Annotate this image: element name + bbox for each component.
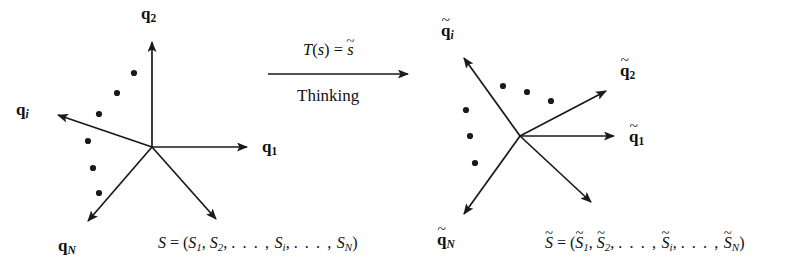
tilde-accent-icon: ~ bbox=[442, 12, 450, 28]
axis-arrow-q2-tilde bbox=[520, 91, 606, 136]
transform-formula-result: ~s bbox=[347, 42, 353, 59]
axis-label-q2-subscript: 2 bbox=[150, 12, 156, 24]
vector-diagram-svg bbox=[0, 0, 800, 270]
ellipsis-dot bbox=[114, 90, 120, 96]
axis-label-q2-tilde-base-wrap: ~q bbox=[620, 62, 629, 79]
state-label-s-item-i: S bbox=[275, 234, 283, 251]
left-diagram-axes bbox=[58, 42, 247, 221]
state-label-s-tilde-equals: = bbox=[553, 234, 570, 251]
state-label-s-tilde-comma-2: , bbox=[610, 234, 614, 251]
transform-method-label: Thinking bbox=[297, 87, 359, 104]
state-label-s-tilde-close: ) bbox=[739, 234, 744, 251]
axis-label-qi-tilde-base-wrap: ~q bbox=[441, 22, 450, 39]
ellipsis-dot bbox=[467, 133, 473, 139]
ellipsis-dot bbox=[96, 190, 102, 196]
tilde-accent-icon: ~ bbox=[575, 226, 583, 241]
transform-formula: T(s) = ~s bbox=[303, 42, 354, 59]
axis-label-q1-tilde: ~q1 bbox=[629, 128, 644, 148]
axis-label-q1-tilde-base-wrap: ~q bbox=[629, 128, 638, 145]
tilde-accent-icon: ~ bbox=[597, 226, 605, 241]
axis-arrow-qi-tilde bbox=[464, 58, 520, 136]
right-diagram-axes bbox=[464, 58, 614, 214]
state-label-s-tilde-item-N-wrap: ~S bbox=[724, 235, 732, 251]
state-label-s-tilde-dots-1: . . . , bbox=[618, 234, 657, 251]
state-label-s-comma-1: , bbox=[202, 234, 206, 251]
axis-arrow-qN bbox=[88, 147, 152, 221]
axis-label-qN-tilde-base-wrap: ~q bbox=[437, 231, 446, 248]
state-label-s-equals: = bbox=[166, 234, 183, 251]
tilde-accent-icon: ~ bbox=[724, 226, 732, 241]
state-label-s: S = (S1, S2, . . . , Si, . . . , SN) bbox=[158, 235, 358, 253]
axis-label-qN-tilde-subscript: N bbox=[446, 238, 454, 250]
state-label-s-tilde-item-2-wrap: ~S bbox=[597, 235, 605, 251]
tilde-accent-icon: ~ bbox=[630, 118, 638, 134]
state-label-s-comma-3: , bbox=[286, 234, 290, 251]
state-label-s-dots-2: . . . , bbox=[294, 234, 333, 251]
axis-arrow-qN-tilde bbox=[464, 136, 520, 214]
axis-arrow-s bbox=[152, 147, 216, 219]
axis-label-qN-tilde: ~qN bbox=[437, 231, 455, 251]
axis-arrow-s-tilde bbox=[520, 136, 591, 202]
state-label-s-tilde-comma-1: , bbox=[589, 234, 593, 251]
tilde-accent-icon: ~ bbox=[621, 52, 629, 68]
transform-formula-t: T bbox=[303, 40, 312, 59]
axis-label-q2-tilde: ~q2 bbox=[620, 62, 635, 82]
state-label-s-tilde-comma-3: , bbox=[673, 234, 677, 251]
tilde-accent-icon: ~ bbox=[346, 33, 354, 48]
ellipsis-dot bbox=[90, 165, 96, 171]
axis-label-q1-subscript: 1 bbox=[271, 145, 277, 157]
ellipsis-dot bbox=[131, 70, 137, 76]
state-label-s-tilde-item-1-wrap: ~S bbox=[575, 235, 583, 251]
ellipsis-dot bbox=[96, 111, 102, 117]
axis-label-qi-tilde-subscript: i bbox=[450, 29, 453, 41]
state-label-s-item-N: S bbox=[337, 234, 345, 251]
state-label-s-comma-2: , bbox=[223, 234, 227, 251]
state-label-s-tilde-dots-2: . . . , bbox=[681, 234, 720, 251]
transform-formula-equals: = bbox=[330, 40, 348, 59]
state-label-s-tilde: ~S = (~S1, ~S2, . . . , ~Si, . . . , ~SN… bbox=[545, 235, 745, 253]
ellipsis-dot bbox=[500, 83, 506, 89]
ellipsis-dot bbox=[524, 89, 530, 95]
axis-label-q2-tilde-subscript: 2 bbox=[629, 69, 635, 81]
state-label-s-tilde-item-i-wrap: ~S bbox=[662, 235, 670, 251]
axis-label-qi-subscript: i bbox=[25, 108, 28, 120]
tilde-accent-icon: ~ bbox=[545, 226, 553, 241]
ellipsis-dot bbox=[472, 160, 478, 166]
state-label-s-item-2: S bbox=[210, 234, 218, 251]
state-label-s-lhs: S bbox=[158, 234, 166, 251]
state-label-s-close: ) bbox=[352, 234, 357, 251]
axis-label-q1: q1 bbox=[262, 138, 277, 158]
tilde-accent-icon: ~ bbox=[438, 221, 446, 237]
axis-label-qN-subscript: N bbox=[67, 244, 75, 256]
ellipsis-dot bbox=[548, 98, 554, 104]
ellipsis-dot bbox=[463, 107, 469, 113]
state-label-s-tilde-lhs-wrap: ~S bbox=[545, 235, 553, 251]
tilde-accent-icon: ~ bbox=[662, 226, 670, 241]
axis-label-qN: qN bbox=[58, 237, 76, 257]
axis-label-q1-tilde-subscript: 1 bbox=[638, 135, 644, 147]
state-label-s-dots-1: . . . , bbox=[231, 234, 270, 251]
axis-label-q2: q2 bbox=[141, 5, 156, 25]
ellipsis-dot bbox=[85, 138, 91, 144]
axis-label-qi-tilde: ~qi bbox=[441, 22, 454, 42]
axis-label-qi: qi bbox=[16, 101, 29, 121]
axis-arrow-qi bbox=[58, 115, 152, 147]
figure-canvas: q2 q1 qi qN S = (S1, S2, . . . , Si, . .… bbox=[0, 0, 800, 270]
